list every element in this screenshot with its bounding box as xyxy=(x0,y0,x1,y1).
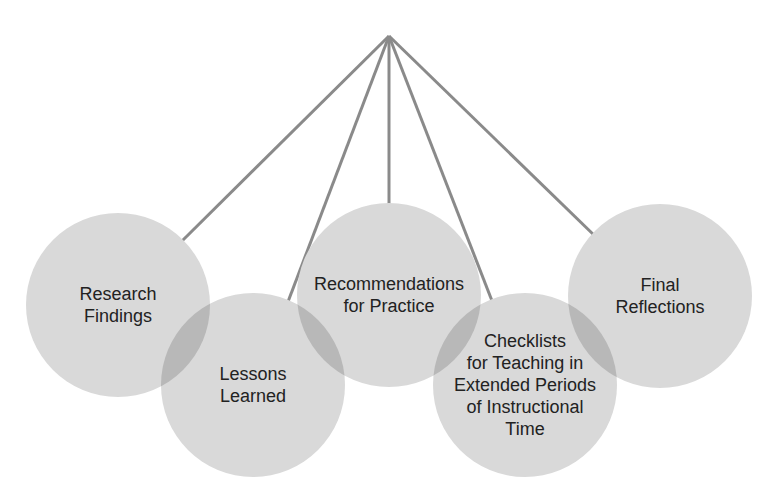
node-label-recommendations-for-practice: Recommendationsfor Practice xyxy=(314,273,464,317)
node-label-lessons-learned: LessonsLearned xyxy=(219,363,286,407)
node-label-final-reflections: FinalReflections xyxy=(615,274,704,318)
node-label-checklists: Checklistsfor Teaching inExtended Period… xyxy=(454,330,596,440)
connector-line-final-reflections xyxy=(389,36,597,238)
diagram-canvas xyxy=(0,0,774,492)
node-label-research-findings: ResearchFindings xyxy=(79,283,156,327)
